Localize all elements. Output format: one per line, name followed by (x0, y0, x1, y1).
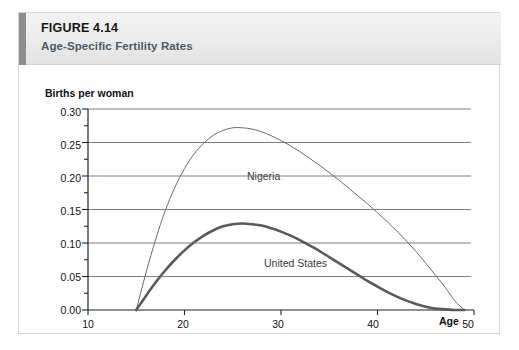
figure-subtitle: Age-Specific Fertility Rates (41, 40, 193, 52)
series-line-nigeria (136, 128, 464, 310)
chart-plot-area (19, 65, 501, 335)
figure-number-label: FIGURE 4.14 (41, 21, 118, 35)
gridlines (88, 109, 471, 277)
header-accent-bar (19, 13, 26, 65)
figure-container: FIGURE 4.14 Age-Specific Fertility Rates… (18, 12, 500, 334)
plot-region: Births per woman Age 0.30 0.25 0.20 0.15… (19, 65, 501, 335)
axis-ticks (82, 109, 474, 315)
figure-header: FIGURE 4.14 Age-Specific Fertility Rates (19, 13, 501, 65)
series-line-united-states (136, 224, 464, 310)
figure-number-text: FIGURE 4.14 (41, 21, 118, 35)
